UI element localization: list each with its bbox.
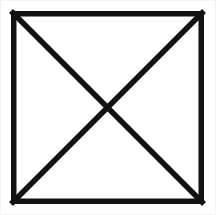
crossed-square-icon bbox=[0, 0, 216, 215]
image-canvas bbox=[0, 0, 216, 215]
